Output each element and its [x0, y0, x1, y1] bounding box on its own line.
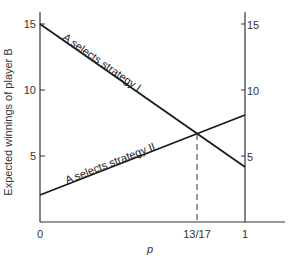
- label-strategy-1: A selects strategy I: [61, 31, 144, 94]
- x-tick-label-13-17: 13/17: [183, 228, 211, 240]
- game-theory-chart: 15 10 5 15 10 5 0 13/17 1 p Expected win…: [0, 0, 294, 264]
- left-tick-label-10: 10: [24, 84, 36, 96]
- right-tick-label-15: 15: [247, 19, 259, 31]
- left-tick-label-5: 5: [30, 150, 36, 162]
- x-tick-label-0: 0: [37, 228, 43, 240]
- right-tick-label-10: 10: [247, 85, 259, 97]
- y-axis-title: Expected winnings of player B: [2, 48, 14, 195]
- right-tick-label-5: 5: [247, 151, 253, 163]
- left-tick-label-15: 15: [24, 18, 36, 30]
- label-strategy-2: A selects strategy II: [63, 140, 156, 186]
- x-axis-title: p: [146, 243, 153, 255]
- x-tick-label-1: 1: [242, 228, 248, 240]
